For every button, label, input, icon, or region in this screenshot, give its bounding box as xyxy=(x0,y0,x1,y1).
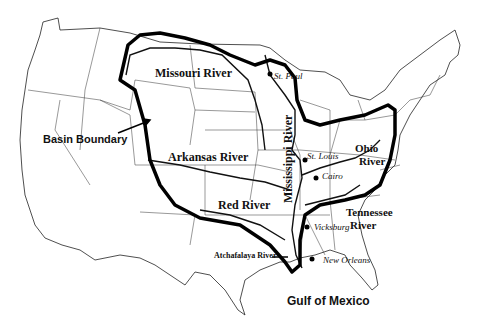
red-river-label: Red River xyxy=(218,199,270,211)
ohio-river-label-2: River xyxy=(359,156,385,167)
vicksburg-label: Vicksburg xyxy=(314,223,350,232)
mississippi-basin-map: Missouri River St. Paul Mississippi Rive… xyxy=(0,0,502,322)
ohio-river-label-1: Ohio xyxy=(355,143,378,154)
cairo-label: Cairo xyxy=(322,172,343,181)
tennessee-river-label-2: River xyxy=(350,220,376,231)
atchafalaya-river-label: Atchafalaya River xyxy=(214,252,276,260)
st-paul-label: St. Paul xyxy=(274,72,303,81)
mississippi-river-label: Mississippi River xyxy=(282,115,294,203)
arkansas-river-label: Arkansas River xyxy=(168,151,248,163)
new-orleans-label: New Orleans xyxy=(323,256,370,265)
missouri-river-label: Missouri River xyxy=(155,67,232,79)
arkansas-river-line xyxy=(148,160,290,190)
tennessee-river-label-1: Tennessee xyxy=(346,207,393,218)
annotation-arrows xyxy=(118,119,288,257)
map-graphics xyxy=(0,0,502,322)
gulf-of-mexico-label: Gulf of Mexico xyxy=(287,295,370,307)
basin-boundary-label: Basin Boundary xyxy=(43,134,127,145)
st-louis-label: St. Louis xyxy=(307,152,339,161)
